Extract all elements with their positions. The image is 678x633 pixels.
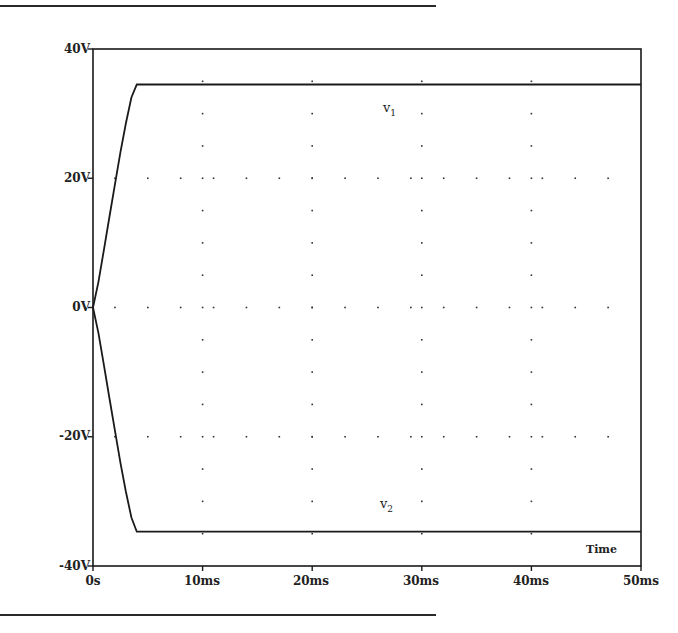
axis-ticks [88,49,641,571]
x-tick-label-40: 40ms [501,574,561,588]
y-tick-label-20: 20V [30,171,90,185]
trace-v2 [93,308,641,532]
trace-label-v1: v1 [383,100,396,118]
plot-area [0,0,678,633]
x-tick-label-20: 20ms [281,574,341,588]
y-tick-label-neg40: -40V [30,559,90,573]
x-tick-label-10: 10ms [172,574,232,588]
grid-dots [114,81,609,535]
y-tick-label-neg20: -20V [30,429,90,443]
y-tick-label-0: 0V [30,300,90,314]
plot-frame [93,49,641,566]
x-tick-label-0: 0s [63,574,123,588]
x-axis-title: Time [586,543,617,556]
trace-label-v2: v2 [380,496,393,514]
y-tick-label-40: 40V [30,42,90,56]
x-tick-label-50: 50ms [611,574,671,588]
x-tick-label-30: 30ms [391,574,451,588]
trace-v1 [93,85,641,308]
